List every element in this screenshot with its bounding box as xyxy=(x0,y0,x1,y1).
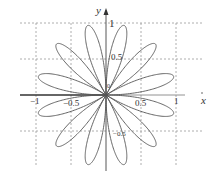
polar-rose-chart: −1−0.50.5110.5−0.50 x y xyxy=(0,0,218,179)
y-axis-label: y xyxy=(95,4,101,16)
y-axis-arrow-icon xyxy=(104,8,109,15)
x-tick-label: −0.5 xyxy=(63,98,80,108)
axes xyxy=(20,8,203,171)
x-axis-label: x xyxy=(200,94,206,106)
y-tick-label: 1 xyxy=(109,17,115,29)
x-tick-label: 1 xyxy=(174,96,179,106)
origin-label: 0 xyxy=(107,83,110,89)
x-tick-label: 0.5 xyxy=(135,98,147,108)
x-tick-label: −1 xyxy=(30,96,40,106)
y-tick-label: 0.5 xyxy=(111,52,123,62)
y-tick-label: −0.5 xyxy=(113,130,126,138)
